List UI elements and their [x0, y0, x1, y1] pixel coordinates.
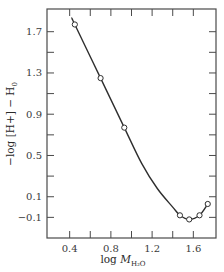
x-axis-tick-labels: 0.40.81.21.6: [62, 243, 202, 254]
data-point-marker: [205, 201, 210, 206]
data-point-marker: [197, 213, 202, 218]
chart: 0.40.81.21.6 1.71.30.90.50.1−0.1 log MH₂…: [0, 0, 224, 272]
y-axis-ticks: [47, 32, 216, 218]
data-points: [72, 22, 210, 222]
axes-box: [47, 9, 216, 238]
data-point-marker: [98, 76, 103, 81]
data-point-marker: [122, 125, 127, 130]
x-axis-title: log MH₂O: [100, 253, 145, 268]
data-point-marker: [177, 213, 182, 218]
y-tick-label: 1.3: [26, 67, 42, 78]
y-axis-title: −log [H+] − H0: [4, 82, 19, 166]
y-tick-label: 0.1: [26, 191, 42, 202]
data-point-marker: [187, 217, 192, 222]
y-tick-label: 0.5: [26, 150, 42, 161]
y-tick-label: 0.9: [26, 109, 42, 120]
fitted-curve: [72, 18, 208, 219]
x-tick-label: 1.6: [185, 243, 201, 254]
y-tick-label: 1.7: [26, 26, 42, 37]
x-axis-ticks: [70, 9, 194, 238]
y-axis-tick-labels: 1.71.30.90.50.1−0.1: [18, 26, 42, 223]
x-tick-label: 0.4: [62, 243, 78, 254]
data-point-marker: [72, 22, 77, 27]
x-tick-label: 1.2: [144, 243, 160, 254]
plot-frame: [47, 9, 216, 238]
y-tick-label: −0.1: [18, 212, 42, 223]
